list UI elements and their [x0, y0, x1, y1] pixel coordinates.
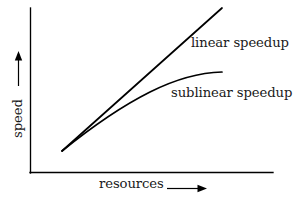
right-arrow-icon: [198, 185, 208, 193]
speedup-figure: linear speedup sublinear speedup resourc…: [0, 0, 293, 207]
linear-speedup-line: [62, 8, 222, 151]
y-axis-label: speed: [11, 87, 24, 151]
sublinear-speedup-curve: [62, 72, 222, 151]
linear-speedup-label: linear speedup: [191, 36, 289, 49]
x-axis-label: resources: [99, 177, 164, 190]
up-arrow-icon: [15, 51, 22, 61]
sublinear-speedup-label: sublinear speedup: [171, 86, 292, 99]
